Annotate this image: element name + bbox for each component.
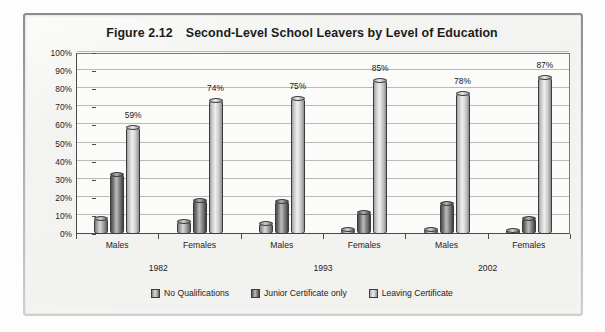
bar-junior-certificate-only xyxy=(110,174,124,234)
gridline-100 xyxy=(77,51,569,52)
bar-cylinder-cap xyxy=(373,78,387,83)
y-axis-tick-label: 100% xyxy=(20,48,72,58)
x-axis-tick-mark xyxy=(323,234,324,239)
bar-cylinder-cap xyxy=(522,216,536,221)
bar-no-qualifications xyxy=(259,223,273,234)
figure-number: Figure 2.12 xyxy=(106,26,173,40)
scanned-page: Figure 2.12Second-Level School Leavers b… xyxy=(0,0,605,332)
x-axis-category-label: Females xyxy=(489,240,569,250)
bar-cylinder-cap xyxy=(291,96,305,101)
bar-no-qualifications xyxy=(506,230,520,234)
legend-item: Leaving Certificate xyxy=(369,288,453,298)
bar-no-qualifications xyxy=(177,221,191,234)
legend-item: Junior Certificate only xyxy=(251,288,347,298)
bar-cylinder-cap xyxy=(341,227,355,232)
bar-leaving-certificate xyxy=(373,80,387,234)
x-axis-tick-mark xyxy=(405,234,406,239)
y-axis: 100%90%80%70%60%50%40%30%20%10%0% xyxy=(20,45,72,242)
bar-data-label: 87% xyxy=(525,60,565,70)
bar-no-qualifications xyxy=(94,218,108,234)
bar-cylinder-cap xyxy=(506,228,520,233)
x-axis-tick-mark xyxy=(488,234,489,239)
bar-group: 85% xyxy=(341,53,387,234)
y-axis-tick-label: 90% xyxy=(20,66,72,76)
bar-cylinder-cap xyxy=(110,172,124,177)
legend-swatch-icon xyxy=(251,289,260,298)
x-axis-category-label: Females xyxy=(160,240,240,250)
x-axis-category-label: Males xyxy=(242,240,322,250)
bar-data-label: 59% xyxy=(113,110,153,120)
bar-no-qualifications xyxy=(341,229,355,234)
legend-swatch-icon xyxy=(369,289,378,298)
legend-item: No Qualifications xyxy=(151,288,229,298)
y-axis-tick-label: 70% xyxy=(20,102,72,112)
bar-cylinder-cap xyxy=(357,210,371,215)
x-axis-year-label: 2002 xyxy=(428,263,548,273)
legend-label: Leaving Certificate xyxy=(382,288,453,298)
bar-junior-certificate-only xyxy=(193,200,207,234)
bar-data-label: 75% xyxy=(278,81,318,91)
x-axis-year-label: 1982 xyxy=(98,263,218,273)
bar-junior-certificate-only xyxy=(357,212,371,234)
y-axis-tick-label: 0% xyxy=(20,229,72,239)
bar-junior-certificate-only xyxy=(275,201,289,234)
bar-no-qualifications xyxy=(424,229,438,234)
bar-leaving-certificate xyxy=(126,127,140,234)
bar-cylinder-cap xyxy=(177,219,191,224)
bar-data-label: 85% xyxy=(360,63,400,73)
x-axis-category-label: Females xyxy=(324,240,404,250)
bar-group: 78% xyxy=(424,53,470,234)
bar-cylinder-cap xyxy=(456,91,470,96)
bar-cylinder-cap xyxy=(424,227,438,232)
bar-junior-certificate-only xyxy=(522,218,536,234)
bar-junior-certificate-only xyxy=(440,203,454,234)
chart-legend: No QualificationsJunior Certificate only… xyxy=(28,288,576,298)
bar-leaving-certificate xyxy=(456,93,470,234)
x-axis-tick-mark xyxy=(76,234,77,239)
bar-leaving-certificate xyxy=(209,100,223,234)
bar-group: 59% xyxy=(94,53,140,234)
bar-group: 75% xyxy=(259,53,305,234)
bar-cylinder-cap xyxy=(209,98,223,103)
y-axis-tick-mark xyxy=(92,234,96,235)
figure-title-text: Second-Level School Leavers by Level of … xyxy=(186,26,498,40)
bar-cylinder-cap xyxy=(126,125,140,130)
bar-cylinder-cap xyxy=(440,201,454,206)
bar-group: 74% xyxy=(177,53,223,234)
legend-label: No Qualifications xyxy=(164,288,229,298)
y-axis-tick-label: 10% xyxy=(20,211,72,221)
x-axis-tick-mark xyxy=(158,234,159,239)
x-axis-tick-mark xyxy=(570,234,571,239)
y-axis-tick-label: 50% xyxy=(20,139,72,149)
bar-leaving-certificate xyxy=(538,77,552,234)
bar-cylinder-cap xyxy=(538,75,552,80)
x-axis-category-label: Males xyxy=(407,240,487,250)
bar-leaving-certificate xyxy=(291,98,305,234)
y-axis-tick-label: 60% xyxy=(20,120,72,130)
x-axis-category-label: Males xyxy=(77,240,157,250)
chart-title: Figure 2.12Second-Level School Leavers b… xyxy=(28,26,576,40)
y-axis-tick-label: 40% xyxy=(20,157,72,167)
bar-data-label: 78% xyxy=(443,76,483,86)
y-axis-tick-label: 30% xyxy=(20,175,72,185)
x-axis-tick-mark xyxy=(241,234,242,239)
legend-label: Junior Certificate only xyxy=(264,288,347,298)
y-axis-tick-label: 20% xyxy=(20,193,72,203)
bar-cylinder-cap xyxy=(275,199,289,204)
bar-group: 87% xyxy=(506,53,552,234)
bar-container: 59%74%75%85%78%87% xyxy=(76,53,570,234)
bar-cylinder-cap xyxy=(94,216,108,221)
legend-swatch-icon xyxy=(151,289,160,298)
y-axis-tick-label: 80% xyxy=(20,84,72,94)
bar-cylinder-cap xyxy=(259,221,273,226)
bar-data-label: 74% xyxy=(196,83,236,93)
bar-cylinder-cap xyxy=(193,198,207,203)
x-axis-year-label: 1993 xyxy=(263,263,383,273)
